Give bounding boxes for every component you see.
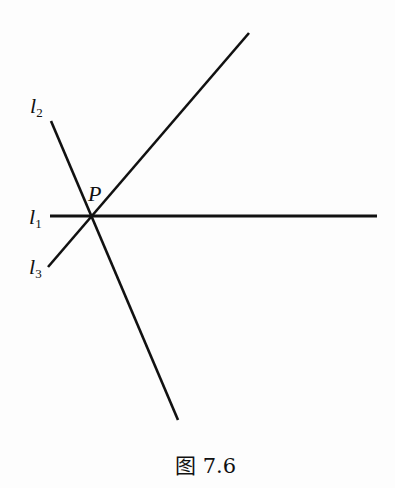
label-l3-subscript: 3 <box>35 266 42 281</box>
label-p-letter: P <box>88 181 101 206</box>
label-l1: l1 <box>29 206 42 230</box>
label-l3: l3 <box>29 256 42 280</box>
figure-caption: 图 7.6 <box>0 449 395 479</box>
line-l3 <box>48 33 249 267</box>
label-l2-subscript: 2 <box>36 105 43 120</box>
lines-diagram <box>0 0 395 488</box>
line-l2 <box>51 121 178 420</box>
label-l1-subscript: 1 <box>35 216 42 231</box>
figure-canvas: l2 P l1 l3 图 7.6 <box>0 0 395 488</box>
label-point-p: P <box>88 183 101 205</box>
label-l2: l2 <box>30 95 43 119</box>
